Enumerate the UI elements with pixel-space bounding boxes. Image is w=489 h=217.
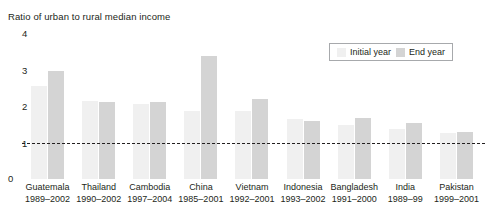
- y-axis-tick-0: 0: [8, 174, 13, 184]
- x-axis-label-period: 1985–2001: [175, 194, 226, 206]
- bar-group: [175, 33, 226, 179]
- x-axis-label-period: 1992–2001: [226, 194, 277, 206]
- reference-line-value-1: [22, 143, 485, 144]
- x-axis-label-country: Indonesia: [278, 182, 329, 194]
- bar-end-year: [355, 118, 371, 179]
- bar-initial-year: [235, 111, 251, 179]
- x-axis-label-country: China: [175, 182, 226, 194]
- bar-end-year: [252, 99, 268, 179]
- x-axis-label-period: 1991–2000: [329, 194, 380, 206]
- x-axis-labels: Guatemala1989–2002Thailand1990–2002Cambo…: [22, 182, 482, 205]
- bar-end-year: [99, 102, 115, 179]
- x-axis-label-country: Guatemala: [22, 182, 73, 194]
- x-axis-label: Indonesia1993–2002: [278, 182, 329, 205]
- x-axis-label-country: Cambodia: [124, 182, 175, 194]
- bar-end-year: [406, 123, 422, 179]
- legend-item-end-year: End year: [396, 48, 445, 57]
- bar-group: [278, 33, 329, 179]
- legend-label-initial-year: Initial year: [350, 48, 391, 57]
- bar-initial-year: [82, 101, 98, 179]
- x-axis-label-country: India: [380, 182, 431, 194]
- x-axis-label: Cambodia1997–2004: [124, 182, 175, 205]
- legend-swatch-initial-year-icon: [337, 48, 346, 57]
- x-axis-label-period: 1990–2002: [73, 194, 124, 206]
- bar-end-year: [304, 121, 320, 179]
- x-axis-label: China1985–2001: [175, 182, 226, 205]
- x-axis-label-country: Thailand: [73, 182, 124, 194]
- bar-end-year: [150, 102, 166, 179]
- x-axis-label-period: 1997–2004: [124, 194, 175, 206]
- legend-item-initial-year: Initial year: [337, 48, 391, 57]
- bar-initial-year: [440, 133, 456, 179]
- bar-initial-year: [389, 129, 405, 179]
- bar-initial-year: [338, 125, 354, 179]
- bar-end-year: [48, 71, 64, 179]
- x-axis-label: Guatemala1989–2002: [22, 182, 73, 205]
- x-axis-label: India1989–99: [380, 182, 431, 205]
- x-axis-label-country: Vietnam: [226, 182, 277, 194]
- x-axis-label-country: Pakistan: [431, 182, 482, 194]
- x-axis-label: Bangladesh1991–2000: [329, 182, 380, 205]
- chart-axis-title: Ratio of urban to rural median income: [8, 11, 170, 22]
- bar-initial-year: [31, 86, 47, 179]
- bar-initial-year: [287, 119, 303, 179]
- chart-legend: Initial year End year: [329, 43, 453, 61]
- x-axis-label-period: 1989–2002: [22, 194, 73, 206]
- bar-group: [226, 33, 277, 179]
- bar-end-year: [201, 56, 217, 179]
- bar-initial-year: [184, 111, 200, 179]
- x-axis-label-period: 1993–2002: [278, 194, 329, 206]
- bar-group: [22, 33, 73, 179]
- x-axis-label: Vietnam1992–2001: [226, 182, 277, 205]
- x-axis-label: Thailand1990–2002: [73, 182, 124, 205]
- bar-group: [73, 33, 124, 179]
- bar-group: [124, 33, 175, 179]
- bar-end-year: [457, 132, 473, 179]
- legend-label-end-year: End year: [409, 48, 445, 57]
- x-axis-label-period: 1999–2001: [431, 194, 482, 206]
- legend-swatch-end-year-icon: [396, 48, 405, 57]
- chart-figure: Ratio of urban to rural median income 4 …: [0, 0, 489, 217]
- x-axis-label-period: 1989–99: [380, 194, 431, 206]
- x-axis-label-country: Bangladesh: [329, 182, 380, 194]
- x-axis-label: Pakistan1999–2001: [431, 182, 482, 205]
